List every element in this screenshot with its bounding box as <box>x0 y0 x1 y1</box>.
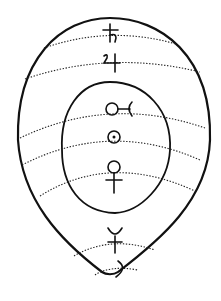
venus-symbol <box>106 161 122 193</box>
jupiter-symbol <box>104 54 120 72</box>
orbit-mars <box>20 114 205 138</box>
sun-symbol <box>108 131 120 143</box>
inner-egg-outline <box>62 82 170 213</box>
orbit-venus <box>40 173 195 196</box>
orbit-jupiter <box>25 63 200 79</box>
saturn-symbol <box>103 24 118 42</box>
cosmic-egg-diagram <box>0 0 221 301</box>
outer-egg-outline <box>18 18 210 274</box>
diagram-canvas <box>0 0 221 301</box>
mercury-symbol <box>108 228 122 253</box>
